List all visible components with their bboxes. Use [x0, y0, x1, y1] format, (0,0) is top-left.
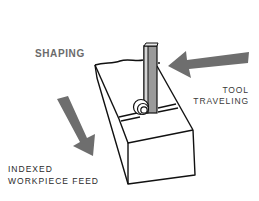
tool-traveling-line-1: TOOL — [193, 85, 249, 96]
indexed-feed-label: INDEXED WORKPIECE FEED — [8, 163, 99, 187]
groove-line-upper — [119, 113, 137, 117]
groove-line-lower-right — [158, 108, 178, 112]
workpiece-left-edge — [95, 65, 128, 184]
tool-traveling-arrow-icon — [168, 51, 249, 78]
tool-traveling-label: TOOL TRAVELING — [193, 85, 249, 107]
workpiece-top-edge — [95, 60, 143, 65]
workpiece-front-top-edge — [119, 119, 193, 143]
feed-arrow-icon — [57, 96, 95, 156]
tool-traveling-line-2: TRAVELING — [193, 96, 249, 107]
tool-top-cap — [144, 43, 158, 46]
chip-inner-coil — [141, 107, 147, 113]
indexed-feed-line-1: INDEXED — [8, 163, 99, 175]
groove-line-upper-right — [158, 104, 176, 108]
indexed-feed-line-2: WORKPIECE FEED — [8, 175, 99, 187]
shaping-label: SHAPING — [35, 49, 85, 59]
curled-chip — [134, 100, 149, 115]
shaping-diagram: SHAPING TOOL TRAVELING INDEXED WORKPIECE… — [0, 0, 259, 201]
workpiece-front-face — [128, 130, 195, 184]
groove-line-lower — [121, 117, 140, 121]
